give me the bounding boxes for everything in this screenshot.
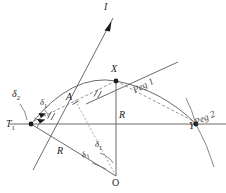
node-dot-T1 <box>29 122 34 127</box>
label-radius-left: R <box>57 146 63 156</box>
chord-X-to-Y <box>116 81 195 122</box>
label-point-T1: T1 <box>6 119 15 132</box>
line-I-arrowhead <box>105 22 112 32</box>
diagram-canvas <box>0 0 226 193</box>
label-delta-2: δ2 <box>12 89 20 102</box>
angle-arc-delta2 <box>20 104 27 120</box>
label-radius-vertical: R <box>119 110 125 120</box>
curve-continuation-arc <box>196 124 214 167</box>
chord-tick-left-b <box>51 113 55 120</box>
node-dot-X <box>114 79 119 84</box>
tangent-ray-peg1 <box>86 62 178 104</box>
angle-arc-delta1-prime-centre <box>92 163 106 169</box>
label-delta-1-tangent: δ1 <box>40 98 47 109</box>
label-line-I: I <box>104 2 107 12</box>
label-delta-1-centre: δ1 <box>95 140 102 151</box>
deflection-arrow-lower <box>37 119 46 124</box>
circular-curve-arc <box>31 80 196 124</box>
label-point-O: O <box>112 178 119 188</box>
label-chord-A: A <box>66 92 72 102</box>
curve-setting-out-diagram: I δ2 δ1 T1 X Y O A R R δ1 δ1 Peg 1 Peg 2 <box>0 0 226 193</box>
label-point-X: X <box>111 64 117 74</box>
